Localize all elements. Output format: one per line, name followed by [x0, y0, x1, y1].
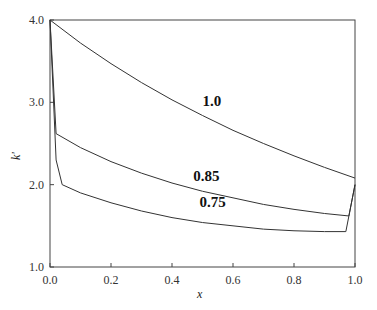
- series-line: [50, 20, 355, 216]
- x-tick-label: 0.2: [104, 273, 119, 287]
- y-tick-label: 4.0: [29, 13, 44, 27]
- x-axis-label: x: [196, 287, 203, 301]
- x-tick-label: 0.4: [165, 273, 180, 287]
- plot-frame: [50, 20, 355, 267]
- chart: 0.00.20.40.60.81.01.02.03.04.01.00.850.7…: [0, 0, 377, 310]
- curve-label: 0.85: [193, 168, 219, 184]
- x-tick-label: 0.8: [287, 273, 302, 287]
- curve-label: 0.75: [199, 194, 225, 210]
- x-tick-label: 1.0: [348, 273, 363, 287]
- x-tick-label: 0.0: [43, 273, 58, 287]
- y-axis-label: k': [9, 152, 23, 160]
- x-tick-label: 0.6: [226, 273, 241, 287]
- curve-label: 1.0: [203, 93, 222, 109]
- y-tick-label: 3.0: [29, 95, 44, 109]
- y-tick-label: 2.0: [29, 178, 44, 192]
- y-tick-label: 1.0: [29, 260, 44, 274]
